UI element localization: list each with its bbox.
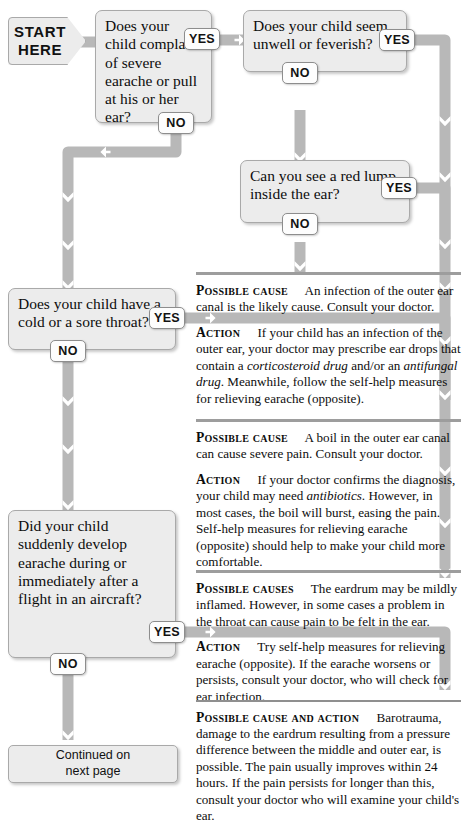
possible-cause-and-action-paragraph: Possible cause and action Barotrauma, da… [196,709,461,824]
section-rule [196,272,461,275]
pill-label: YES [384,33,410,47]
possible-cause-paragraph: Possible cause A boil in the outer ear c… [196,429,461,463]
start-here-line2: HERE [18,41,62,59]
possible-cause-lead: Possible cause [196,430,302,445]
question-text: Can you see a red lump inside the ear? [250,167,396,202]
pill-label: YES [154,625,180,639]
answer-no-q3[interactable]: NO [282,213,318,235]
continued-label: Continued on next page [56,748,130,779]
answer-yes-q1[interactable]: YES [184,28,220,50]
answer-block-barotrauma: Possible cause and action Barotrauma, da… [196,700,461,824]
answer-yes-q2[interactable]: YES [379,29,415,51]
question-text: Does your child seem unwell or feverish? [253,17,388,52]
action-lead: Action [196,325,254,340]
question-text: Did your child suddenly develop earache … [18,517,142,607]
answer-no-q5[interactable]: NO [50,653,86,675]
action-paragraph: Action If your child has an infection of… [196,324,461,407]
answer-no-q2[interactable]: NO [282,62,318,84]
question-text: Does your child have a cold or a sore th… [18,295,161,330]
start-here-line1: START [14,23,66,41]
possible-cause-lead: Possible cause [196,283,302,298]
pill-label: NO [58,344,78,358]
action-lead: Action [196,639,254,654]
action-lead: Action [196,472,254,487]
pill-label: YES [189,32,215,46]
possible-cause-lead: Possible causes [196,581,308,596]
possible-cause-paragraph: Possible causes The eardrum may be mildl… [196,580,461,630]
action-paragraph: Action If your doctor confirms the diagn… [196,471,461,571]
possible-cause-and-action-lead: Possible cause and action [196,710,373,725]
section-rule [196,419,461,422]
action-paragraph: Action Try self-help measures for reliev… [196,638,461,705]
pill-label: NO [290,66,310,80]
pill-label: YES [154,311,180,325]
pill-label: YES [386,181,412,195]
answer-block-boil-outer-ear-canal: Possible cause A boil in the outer ear c… [196,419,461,570]
question-box-earache-or-pull-ear[interactable]: Does your child complain of severe earac… [95,10,212,123]
possible-cause-paragraph: Possible cause An infection of the outer… [196,282,461,316]
answer-no-q4[interactable]: NO [50,340,86,362]
possible-cause-and-action-text: Barotrauma, damage to the eardrum result… [196,710,459,824]
section-rule [196,700,461,702]
answer-block-eardrum-inflamed-throat: Possible causes The eardrum may be mildl… [196,570,461,705]
pill-label: NO [290,217,310,231]
answer-yes-q3[interactable]: YES [381,177,417,199]
start-here-marker: START HERE [8,17,86,65]
answer-yes-q4[interactable]: YES [149,307,185,329]
answer-block-outer-ear-canal-infection: Possible cause An infection of the outer… [196,272,461,407]
continued-next-page-box[interactable]: Continued on next page [8,745,178,783]
pill-label: NO [58,657,78,671]
answer-yes-q5[interactable]: YES [149,621,185,643]
answer-no-q1[interactable]: NO [158,112,194,134]
pill-label: NO [166,116,186,130]
section-rule [196,570,461,573]
